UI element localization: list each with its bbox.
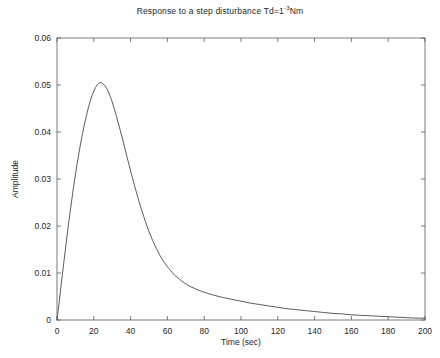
y-axis-ticks: [57, 38, 425, 320]
figure-container: Response to a step disturbance Td=1-3Nm …: [0, 0, 440, 358]
x-tick-label: 60: [163, 326, 173, 336]
axis-frame: [57, 38, 425, 320]
y-tick-label: 0: [46, 315, 51, 325]
x-axis-ticks: [57, 38, 425, 320]
x-tick-label: 0: [55, 326, 60, 336]
x-axis-title: Time (sec): [221, 337, 261, 347]
y-tick-label: 0.03: [34, 174, 51, 184]
y-tick-label: 0.01: [34, 268, 51, 278]
x-tick-label: 80: [199, 326, 209, 336]
x-tick-label: 40: [126, 326, 136, 336]
y-axis-tick-labels: 00.010.020.030.040.050.06: [34, 33, 51, 325]
x-tick-label: 200: [418, 326, 432, 336]
x-tick-label: 140: [308, 326, 322, 336]
plot-area: 020406080100120140160180200 00.010.020.0…: [0, 0, 440, 358]
x-tick-label: 180: [381, 326, 395, 336]
x-tick-label: 20: [89, 326, 99, 336]
response-curve: [57, 83, 425, 320]
x-tick-label: 100: [234, 326, 248, 336]
y-tick-label: 0.06: [34, 33, 51, 43]
y-tick-label: 0.02: [34, 221, 51, 231]
y-tick-label: 0.04: [34, 127, 51, 137]
x-tick-label: 160: [344, 326, 358, 336]
y-axis-title: Amplitude: [10, 160, 20, 198]
y-tick-label: 0.05: [34, 80, 51, 90]
x-axis-tick-labels: 020406080100120140160180200: [55, 326, 433, 336]
x-tick-label: 120: [271, 326, 285, 336]
